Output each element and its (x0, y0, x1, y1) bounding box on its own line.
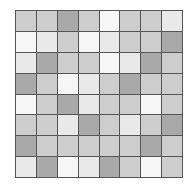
grid-cell (141, 11, 161, 31)
grid-cell (58, 95, 78, 115)
grid-cell (120, 74, 140, 94)
grid-cell (162, 11, 182, 31)
grid-cell (58, 115, 78, 135)
grid-cell (58, 74, 78, 94)
grid-cell (16, 11, 36, 31)
grid-cell (16, 74, 36, 94)
grid-cell (58, 53, 78, 73)
grid-cell (37, 115, 57, 135)
grid-cell (37, 53, 57, 73)
grid-cell (79, 74, 99, 94)
grid-cell (16, 115, 36, 135)
grid-cell (16, 157, 36, 177)
grid-cell (162, 74, 182, 94)
grid-cell (16, 136, 36, 156)
grid-cell (120, 11, 140, 31)
grid-cell (79, 157, 99, 177)
grid-cell (100, 95, 120, 115)
grid-cell (162, 136, 182, 156)
grid-cell (120, 157, 140, 177)
grid-cell (120, 136, 140, 156)
grid-cell (16, 53, 36, 73)
grid-cell (37, 74, 57, 94)
grid-cell (100, 74, 120, 94)
grid-cell (141, 74, 161, 94)
grid-cell (162, 53, 182, 73)
grid-cell (79, 115, 99, 135)
grid-cell (37, 32, 57, 52)
grid-cell (16, 95, 36, 115)
grid-cell (58, 11, 78, 31)
grid-cell (100, 32, 120, 52)
grid-cell (37, 136, 57, 156)
grid-cell (120, 95, 140, 115)
grid-cell (162, 157, 182, 177)
grid-cell (58, 157, 78, 177)
grid-cell (79, 11, 99, 31)
grid-cell (16, 32, 36, 52)
grid-cell (37, 157, 57, 177)
grid-cell (141, 136, 161, 156)
grid-cell (100, 11, 120, 31)
grid-cell (141, 32, 161, 52)
grid-cell (120, 53, 140, 73)
grid-cell (58, 32, 78, 52)
grid-cell (162, 95, 182, 115)
grid-cell (79, 32, 99, 52)
grid-cell (79, 53, 99, 73)
grid-cell (162, 115, 182, 135)
grid-cell (141, 115, 161, 135)
grid-cell (120, 115, 140, 135)
shaded-grid (15, 10, 183, 178)
grid-cell (100, 115, 120, 135)
grid-cell (100, 53, 120, 73)
grid-cell (120, 32, 140, 52)
grid-cell (100, 136, 120, 156)
grid-cell (141, 53, 161, 73)
grid-cell (162, 32, 182, 52)
grid-cell (141, 157, 161, 177)
grid-cell (79, 136, 99, 156)
grid-cell (100, 157, 120, 177)
grid-cell (37, 11, 57, 31)
grid-cell (37, 95, 57, 115)
grid-cell (79, 95, 99, 115)
grid-cell (58, 136, 78, 156)
grid-cell (141, 95, 161, 115)
